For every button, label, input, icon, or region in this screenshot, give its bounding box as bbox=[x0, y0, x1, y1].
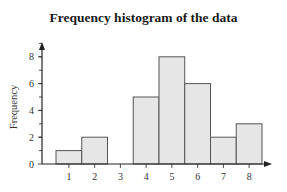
histogram-chart: 0246812345678Frequency bbox=[0, 0, 287, 192]
y-tick-label: 8 bbox=[29, 51, 34, 62]
x-tick-label: 5 bbox=[169, 171, 174, 182]
y-tick-label: 0 bbox=[29, 159, 34, 170]
histogram-bar bbox=[211, 137, 237, 164]
x-tick-label: 7 bbox=[221, 171, 226, 182]
histogram-bar bbox=[56, 151, 82, 164]
y-axis-label: Frequency bbox=[8, 84, 19, 129]
histogram-bar bbox=[133, 97, 159, 164]
histogram-bar bbox=[236, 124, 262, 164]
y-tick-label: 2 bbox=[29, 132, 34, 143]
y-tick-label: 4 bbox=[29, 105, 34, 116]
x-axis-arrow-icon bbox=[264, 161, 272, 167]
x-tick-label: 1 bbox=[66, 171, 71, 182]
x-tick-label: 8 bbox=[247, 171, 252, 182]
y-tick-label: 6 bbox=[29, 78, 34, 89]
x-tick-label: 3 bbox=[118, 171, 123, 182]
histogram-bar bbox=[159, 57, 185, 164]
x-tick-label: 2 bbox=[92, 171, 97, 182]
x-tick-label: 6 bbox=[195, 171, 200, 182]
x-tick-label: 4 bbox=[144, 171, 149, 182]
histogram-bar bbox=[82, 137, 108, 164]
histogram-bar bbox=[185, 84, 211, 164]
